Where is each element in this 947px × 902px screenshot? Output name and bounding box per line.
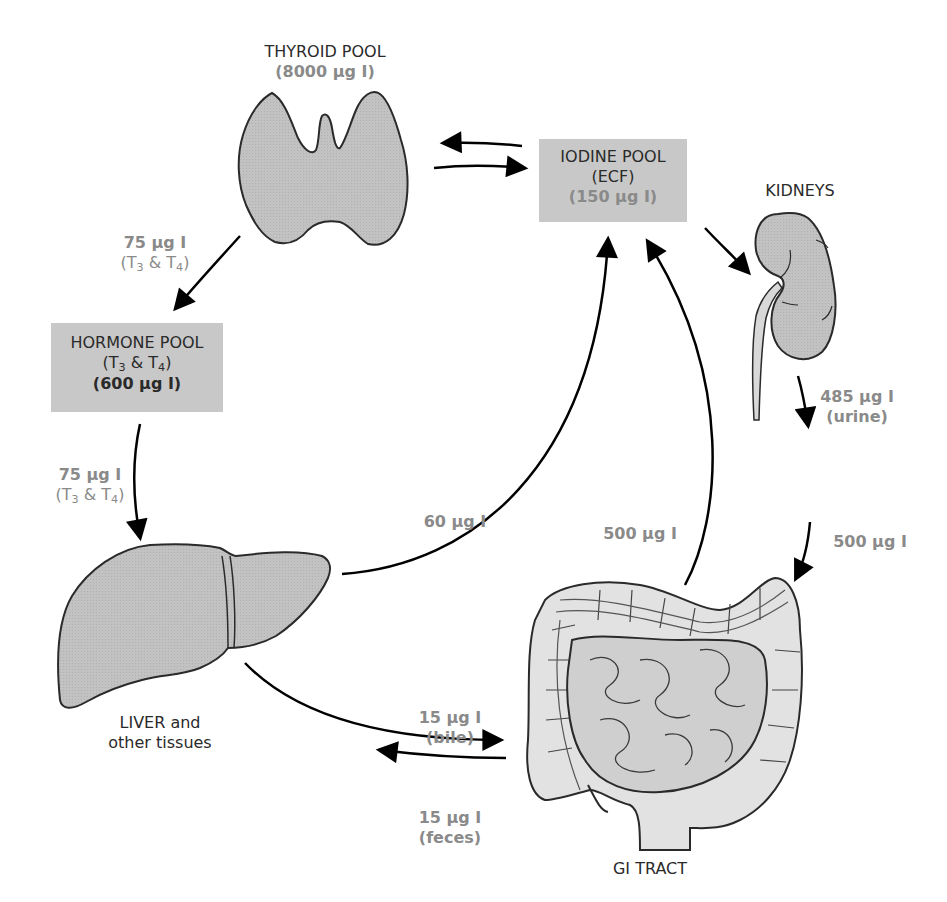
sub-text: & T bbox=[144, 253, 176, 272]
flow-thyroid-hormone-amount: 75 µg I bbox=[95, 233, 215, 252]
sub-text: ) bbox=[183, 253, 189, 272]
gi-tract-title: GI TRACT bbox=[585, 859, 715, 878]
sub-text: ) bbox=[118, 485, 124, 504]
flow-hormone-liver-amount: 75 µg I bbox=[40, 465, 140, 484]
flow-kidney-urine-note: (urine) bbox=[812, 407, 902, 426]
iodine-pool-title: IODINE POOL bbox=[539, 147, 687, 166]
flow-liver-iodine-amount: 60 µg I bbox=[405, 512, 505, 531]
flow-hormone-liver-note: (T3 & T4) bbox=[40, 485, 140, 504]
sub-text: (T bbox=[121, 253, 137, 272]
arrow-diet-to-gi bbox=[796, 522, 810, 578]
flow-diet-gi-amount: 500 µg I bbox=[815, 532, 925, 551]
subscript: 3 bbox=[119, 361, 126, 374]
flow-kidney-urine-amount: 485 µg I bbox=[812, 387, 902, 406]
flow-feces-amount: 15 µg I bbox=[400, 808, 500, 827]
hormone-pool-title: HORMONE POOL bbox=[51, 333, 223, 352]
flow-bile-amount: 15 µg I bbox=[400, 708, 500, 727]
liver-icon bbox=[58, 544, 330, 708]
thyroid-pool-amount: (8000 µg I) bbox=[220, 62, 430, 81]
hormone-pool-subtitle: (T3 & T4) bbox=[51, 353, 223, 372]
subscript: 3 bbox=[137, 261, 144, 274]
sub-text: (T bbox=[56, 485, 72, 504]
sub-text: & T bbox=[79, 485, 111, 504]
hormone-pool-amount: (600 µg I) bbox=[51, 374, 223, 393]
iodine-cycle-diagram: THYROID POOL (8000 µg I) IODINE POOL (EC… bbox=[0, 0, 947, 902]
liver-title-line2: other tissues bbox=[95, 733, 225, 752]
sub-text: & T bbox=[126, 353, 158, 372]
thyroid-gland-icon bbox=[239, 92, 408, 245]
arrow-gi-to-feces bbox=[380, 750, 506, 758]
flow-bile-note: (bile) bbox=[400, 728, 500, 747]
arrow-thyroid-to-iodine bbox=[434, 166, 524, 168]
subscript: 3 bbox=[72, 493, 79, 506]
flow-feces-note: (feces) bbox=[400, 828, 500, 847]
iodine-pool-amount: (150 µg I) bbox=[539, 187, 687, 206]
sub-text: ) bbox=[165, 353, 171, 372]
sub-text: (T bbox=[103, 353, 119, 372]
arrow-iodine-to-kidneys bbox=[705, 228, 748, 272]
thyroid-pool-title: THYROID POOL bbox=[220, 42, 430, 61]
arrow-kidney-to-urine bbox=[798, 376, 808, 425]
kidneys-title: KIDNEYS bbox=[740, 181, 860, 200]
diagram-artwork bbox=[0, 0, 947, 902]
flow-gi-iodine-amount: 500 µg I bbox=[585, 524, 695, 543]
arrow-iodine-to-thyroid bbox=[444, 143, 522, 146]
flow-thyroid-hormone-note: (T3 & T4) bbox=[95, 253, 215, 272]
gi-tract-icon bbox=[527, 578, 802, 850]
iodine-pool-subtitle: (ECF) bbox=[539, 167, 687, 186]
liver-title-line1: LIVER and bbox=[95, 713, 225, 732]
